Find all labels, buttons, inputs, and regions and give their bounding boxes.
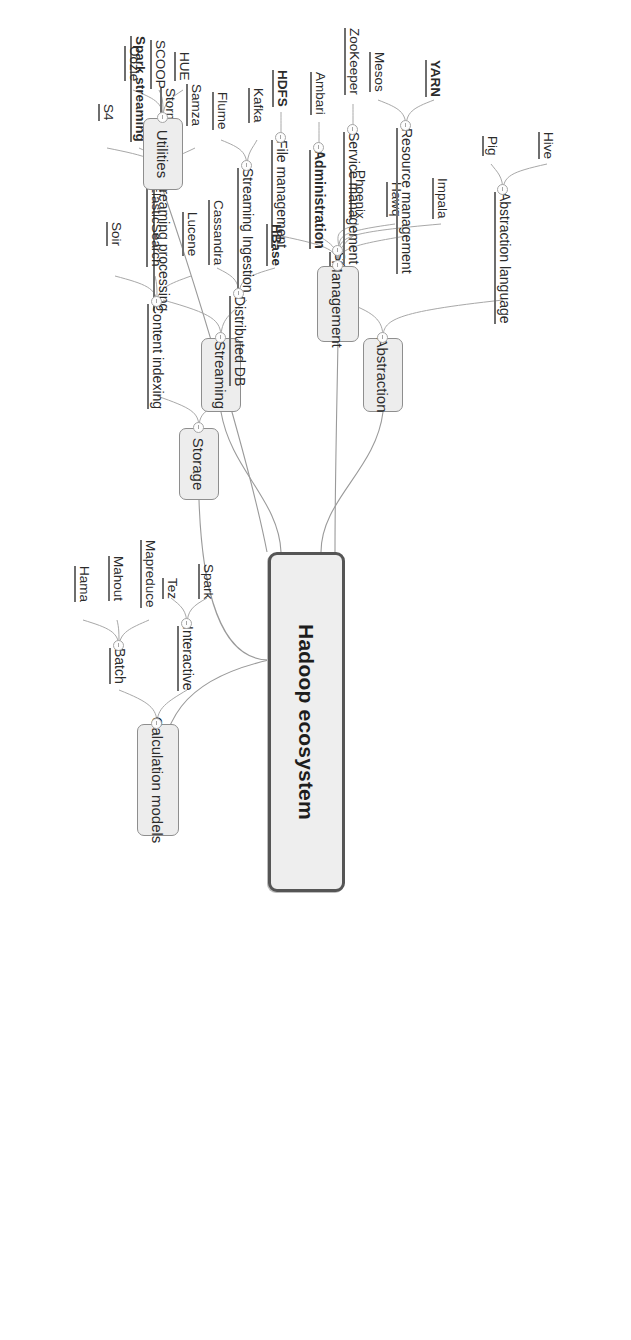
collapse-knob-file-management[interactable] (275, 132, 286, 143)
category-label-management: Management (330, 260, 347, 348)
sub-label: Interactive (180, 626, 196, 691)
leaf-label: Flume (215, 92, 230, 130)
leaf-label: Hive (541, 132, 556, 159)
collapse-knob-batch[interactable] (113, 640, 124, 651)
leaf-node-hbase[interactable]: HBase (266, 224, 283, 266)
leaf-label: ElasticSearch (149, 184, 164, 267)
leaf-label: Hama (77, 566, 92, 602)
sub-node-distributed-db[interactable]: Distributed DB (229, 296, 247, 386)
sub-node-resource-management[interactable]: Resource management (396, 128, 414, 274)
sub-label: Content indexing (150, 304, 166, 409)
sub-label: Distributed DB (232, 296, 248, 386)
leaf-node-kafka[interactable]: Kafka (248, 88, 265, 123)
leaf-node-hama[interactable]: Hama (74, 566, 91, 602)
collapse-knob-sql[interactable] (332, 245, 343, 256)
leaf-node-impala[interactable]: Impala (432, 178, 449, 219)
category-label-utilities: Utilities (155, 130, 172, 178)
collapse-knob-interactive[interactable] (181, 618, 192, 629)
collapse-knob-abstraction-language[interactable] (497, 184, 508, 195)
category-node-storage[interactable]: Storage (179, 428, 219, 500)
leaf-node-hue[interactable]: HUE (174, 52, 191, 81)
category-node-calculation-models[interactable]: Calculation models (137, 724, 179, 836)
category-label-storage: Storage (191, 438, 208, 491)
leaf-node-lucene[interactable]: Lucene (182, 212, 199, 256)
leaf-node-zookeeper[interactable]: ZooKeeper (344, 28, 361, 95)
leaf-node-yarn[interactable]: YARN (425, 60, 442, 97)
collapse-knob-utilities[interactable] (157, 112, 168, 123)
leaf-node-elasticsearch[interactable]: ElasticSearch (146, 184, 163, 267)
sub-node-content-indexing[interactable]: Content indexing (147, 304, 165, 409)
leaf-node-spark[interactable]: Spark (198, 564, 215, 599)
leaf-label: Pig (485, 136, 500, 156)
leaf-label: Tez (165, 578, 180, 599)
root-node-hadoop-ecosystem[interactable]: Hadoop ecosystem (268, 552, 345, 892)
collapse-knob-calculation-models[interactable] (151, 718, 162, 729)
leaf-node-hdfs[interactable]: HDFS (272, 70, 289, 107)
collapse-knob-distributed-db[interactable] (233, 288, 244, 299)
leaf-label: S4 (101, 104, 116, 121)
leaf-node-tez[interactable]: Tez (162, 578, 179, 599)
category-label-calculation-models: Calculation models (150, 717, 167, 844)
category-node-abstraction[interactable]: Abstraction (363, 338, 403, 412)
leaf-label: SCOOP (153, 40, 168, 89)
leaf-label: Impala (435, 178, 450, 219)
collapse-knob-resource-management[interactable] (400, 120, 411, 131)
leaf-label: HBase (269, 224, 284, 266)
root-label: Hadoop ecosystem (295, 624, 319, 820)
leaf-label: Oozie (127, 46, 142, 81)
category-node-utilities[interactable]: Utilities (143, 118, 183, 190)
sub-node-streaming-ingestion[interactable]: Streaming Ingestion (237, 168, 255, 293)
collapse-knob-streaming[interactable] (215, 332, 226, 343)
leaf-node-s4[interactable]: S4 (98, 104, 115, 121)
sub-node-interactive[interactable]: Interactive (177, 626, 195, 691)
leaf-node-samza[interactable]: Samza (186, 84, 203, 126)
leaf-node-flume[interactable]: Flume (212, 92, 229, 130)
collapse-knob-service-management[interactable] (347, 124, 358, 135)
collapse-knob-management[interactable] (332, 260, 343, 271)
leaf-label: Mahout (111, 556, 126, 601)
leaf-label: Mesos (372, 52, 387, 92)
collapse-knob-administration[interactable] (313, 142, 324, 153)
sub-label: Abstraction language (497, 192, 513, 324)
leaf-node-hive[interactable]: Hive (538, 132, 555, 159)
sub-node-abstraction-language[interactable]: Abstraction language (494, 192, 512, 324)
leaf-node-cassandra[interactable]: Cassandra (208, 200, 225, 265)
collapse-knob-content-indexing[interactable] (151, 296, 162, 307)
sub-node-service-management[interactable]: Service management (343, 132, 361, 264)
leaf-node-mahout[interactable]: Mahout (108, 556, 125, 601)
leaf-label: Samza (189, 84, 204, 126)
leaf-node-ambari[interactable]: Ambari (310, 72, 327, 115)
leaf-label: Ambari (313, 72, 328, 115)
leaf-label: Cassandra (211, 200, 226, 265)
leaf-label: Kafka (251, 88, 266, 123)
sub-label: Service management (346, 132, 362, 264)
leaf-label: ZooKeeper (347, 28, 362, 95)
leaf-node-oozie[interactable]: Oozie (124, 46, 141, 81)
mindmap-canvas: Hadoop ecosystem Abstraction Abstraction… (0, 0, 631, 1340)
leaf-node-mesos[interactable]: Mesos (369, 52, 386, 92)
leaf-node-scoop[interactable]: SCOOP (150, 40, 167, 89)
collapse-knob-streaming-ingestion[interactable] (241, 160, 252, 171)
sub-node-administration[interactable]: Administration (309, 150, 327, 249)
leaf-label: HUE (177, 52, 192, 81)
leaf-label: Soir (109, 222, 124, 246)
category-node-management[interactable]: Management (317, 266, 359, 342)
leaf-node-soir[interactable]: Soir (106, 222, 123, 246)
leaf-label: YARN (428, 60, 443, 97)
leaf-label: Spark (201, 564, 216, 599)
leaf-label: Lucene (185, 212, 200, 256)
sub-label: Administration (312, 150, 328, 249)
sub-label: Streaming Ingestion (240, 168, 256, 293)
collapse-knob-storage[interactable] (193, 422, 204, 433)
category-label-streaming: Streaming (213, 341, 230, 409)
sub-label: Batch (112, 648, 128, 684)
category-label-abstraction: Abstraction (375, 337, 392, 412)
collapse-knob-abstraction[interactable] (377, 332, 388, 343)
sub-label: Resource management (399, 128, 415, 274)
sub-node-batch[interactable]: Batch (109, 648, 127, 684)
leaf-label: HDFS (275, 70, 290, 107)
leaf-label: Mapreduce (143, 540, 158, 608)
leaf-node-pig[interactable]: Pig (482, 136, 499, 156)
leaf-node-mapreduce[interactable]: Mapreduce (140, 540, 157, 608)
